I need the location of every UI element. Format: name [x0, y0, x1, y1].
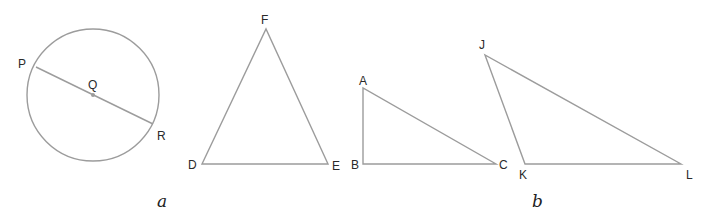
label-C: C [499, 158, 508, 172]
circle-figure: P Q R [18, 29, 166, 161]
triangle-DEF: D E F [188, 13, 340, 173]
triangle-ABC: A B C [351, 74, 508, 172]
label-Q: Q [88, 78, 97, 92]
label-K: K [519, 168, 527, 182]
caption-a: a [157, 191, 167, 211]
triangle-JKL-shape [485, 55, 681, 164]
label-L: L [686, 168, 693, 182]
triangle-ABC-shape [363, 88, 496, 164]
label-B: B [351, 158, 359, 172]
label-R: R [157, 129, 166, 143]
label-F: F [261, 13, 268, 27]
triangle-JKL: J K L [479, 38, 693, 182]
label-E: E [332, 159, 340, 173]
label-P: P [18, 57, 26, 71]
label-J: J [479, 38, 485, 52]
label-D: D [188, 158, 197, 172]
label-A: A [359, 74, 367, 88]
triangle-DEF-shape [202, 29, 328, 164]
geometry-diagram: P Q R D E F A B C J K L a b [0, 0, 707, 216]
caption-b: b [532, 191, 543, 211]
center-point-Q [91, 93, 95, 97]
